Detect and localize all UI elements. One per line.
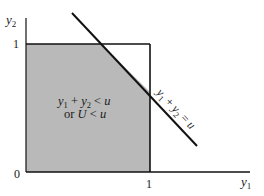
- y-axis-label: y2: [4, 12, 16, 29]
- x-tick-label: 1: [146, 177, 152, 191]
- region-label-line2: or U < u: [64, 107, 106, 121]
- origin-label: 0: [14, 167, 20, 181]
- y-tick-label: 1: [13, 37, 19, 51]
- diagonal-line-label: y1 + y2 = u: [152, 85, 199, 134]
- region-diagram: y2 1 0 1 y1 y1 + y2 < u or U < u y1 + y2…: [0, 0, 264, 196]
- x-axis-label: y1: [239, 174, 251, 191]
